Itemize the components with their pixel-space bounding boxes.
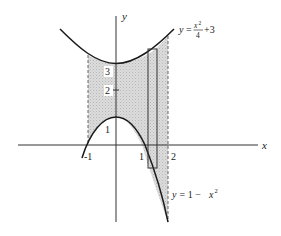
svg-text:4: 4 (196, 31, 200, 40)
x-axis-label: x (261, 139, 267, 151)
svg-text:x: x (208, 189, 214, 200)
svg-text:2: 2 (215, 187, 218, 194)
upper-curve-label: y = x 2 4 +3 (178, 20, 215, 40)
x-tick-label-neg1: -1 (84, 151, 92, 162)
area-between-curves-figure: y x 3 2 1 -1 1 2 y = x 2 4 +3 y = 1 − x … (0, 0, 281, 236)
y-tick-label-2: 2 (105, 85, 110, 96)
lower-curve-label: y = 1 − x 2 (170, 187, 222, 201)
x-tick-label-1: 1 (139, 151, 144, 162)
y-tick-label-1: 1 (105, 124, 110, 135)
svg-text:=: = (186, 24, 192, 35)
shaded-region (88, 36, 168, 222)
y-tick-label-3: 3 (105, 66, 110, 77)
svg-text:y: y (178, 24, 184, 35)
svg-text:+3: +3 (204, 24, 215, 35)
svg-text:x: x (193, 21, 198, 30)
svg-text:= 1 −: = 1 − (177, 189, 203, 200)
y-axis-label: y (121, 10, 127, 22)
x-tick-label-2: 2 (171, 151, 176, 162)
svg-text:2: 2 (199, 20, 202, 26)
